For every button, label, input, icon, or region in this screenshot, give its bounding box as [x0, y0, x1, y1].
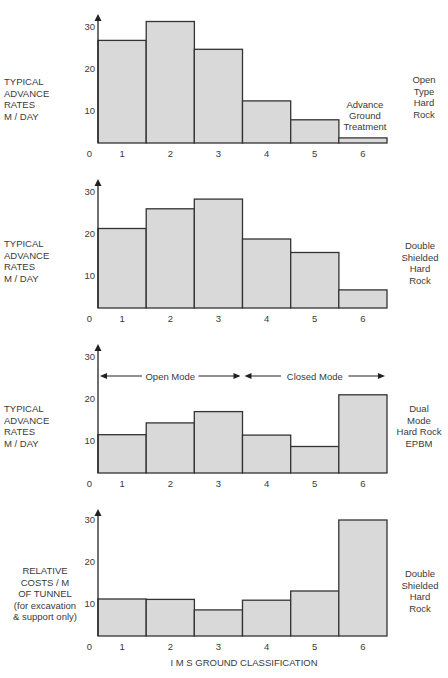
- bar: [291, 591, 339, 636]
- arrow-left-icon: [100, 373, 107, 379]
- bar: [146, 209, 194, 308]
- bar: [98, 435, 146, 473]
- arrow-right-icon: [234, 373, 241, 379]
- panel-1: 1234560102030AdvanceGroundTreatment: [84, 14, 387, 159]
- bar-annotation: Advance: [346, 99, 383, 110]
- bar: [146, 599, 194, 636]
- x-tick-label: 3: [216, 313, 221, 324]
- x-tick-label: 4: [264, 478, 269, 489]
- bar: [194, 412, 242, 473]
- x-tick-label: 5: [312, 641, 317, 652]
- x-tick-label: 2: [168, 641, 173, 652]
- arrow-right-icon: [378, 373, 385, 379]
- y-tick-label: 10: [84, 105, 95, 116]
- bar: [243, 101, 291, 143]
- y-tick-label: 10: [84, 270, 95, 281]
- bar: [339, 138, 387, 143]
- bar: [194, 610, 242, 636]
- bar: [243, 239, 291, 308]
- y-tick-label: 20: [84, 228, 95, 239]
- bar: [243, 600, 291, 636]
- bar: [194, 49, 242, 143]
- x-tick-label: 4: [264, 148, 269, 159]
- bar: [339, 395, 387, 473]
- y-tick-label: 20: [84, 63, 95, 74]
- panel-3: 1234560102030Open ModeClosed Mode: [84, 344, 387, 489]
- bar: [291, 120, 339, 143]
- x-tick-label: 2: [168, 148, 173, 159]
- panel-2-ylabel: TYPICAL ADVANCE RATES M / DAY: [4, 238, 49, 284]
- y-tick-label: 30: [84, 21, 95, 32]
- figure: 1234560102030AdvanceGroundTreatment12345…: [0, 0, 448, 678]
- panel-4-ylabel: RELATIVE COSTS / M OF TUNNEL (for excava…: [2, 565, 88, 623]
- y-tick-label: 30: [84, 514, 95, 525]
- x-tick-label: 3: [216, 148, 221, 159]
- y-tick-label: 0: [87, 641, 92, 652]
- mode-annotation: Open Mode: [145, 371, 195, 382]
- y-tick-label: 0: [87, 148, 92, 159]
- bar: [291, 253, 339, 309]
- x-axis-title: I M S GROUND CLASSIFICATION: [0, 657, 448, 668]
- y-tick-label: 30: [84, 186, 95, 197]
- bar: [98, 599, 146, 636]
- y-tick-label: 0: [87, 478, 92, 489]
- y-tick-label: 20: [84, 393, 95, 404]
- bar-annotation: Ground: [349, 110, 381, 121]
- y-tick-label: 10: [84, 435, 95, 446]
- x-tick-label: 6: [360, 641, 365, 652]
- x-tick-label: 5: [312, 478, 317, 489]
- y-tick-label: 0: [87, 313, 92, 324]
- x-tick-label: 6: [360, 148, 365, 159]
- panel-2: 1234560102030: [84, 179, 387, 324]
- panel-4: 1234560102030: [84, 509, 387, 652]
- x-tick-label: 1: [119, 641, 124, 652]
- x-tick-label: 4: [264, 641, 269, 652]
- panel-1-right-label: Open Type Hard Rock: [400, 74, 448, 120]
- bar: [339, 520, 387, 636]
- x-tick-label: 1: [119, 478, 124, 489]
- x-tick-label: 6: [360, 478, 365, 489]
- x-tick-label: 2: [168, 478, 173, 489]
- mode-annotation: Closed Mode: [287, 371, 343, 382]
- bar: [146, 22, 194, 144]
- x-tick-label: 1: [119, 148, 124, 159]
- arrow-left-icon: [245, 373, 252, 379]
- panel-4-right-label: Double Shielded Hard Rock: [392, 568, 448, 614]
- x-tick-label: 5: [312, 313, 317, 324]
- panel-2-right-label: Double Shielded Hard Rock: [392, 240, 448, 286]
- x-tick-label: 3: [216, 641, 221, 652]
- bar: [98, 229, 146, 309]
- panel-1-ylabel: TYPICAL ADVANCE RATES M / DAY: [4, 76, 49, 122]
- bar: [146, 423, 194, 473]
- bar: [339, 290, 387, 308]
- x-tick-label: 5: [312, 148, 317, 159]
- x-tick-label: 6: [360, 313, 365, 324]
- x-tick-label: 4: [264, 313, 269, 324]
- axis-arrow-icon: [95, 344, 102, 351]
- x-tick-label: 2: [168, 313, 173, 324]
- axis-arrow-icon: [95, 509, 102, 516]
- bar: [243, 435, 291, 473]
- bar: [194, 199, 242, 308]
- y-tick-label: 30: [84, 351, 95, 362]
- x-tick-label: 1: [119, 313, 124, 324]
- panel-3-right-label: Dual Mode Hard Rock EPBM: [390, 403, 448, 449]
- axis-arrow-icon: [95, 14, 102, 21]
- panel-3-ylabel: TYPICAL ADVANCE RATES M / DAY: [4, 403, 49, 449]
- bar: [98, 40, 146, 143]
- bar-annotation: Treatment: [343, 121, 386, 132]
- bar: [291, 447, 339, 474]
- axis-arrow-icon: [95, 179, 102, 186]
- x-tick-label: 3: [216, 478, 221, 489]
